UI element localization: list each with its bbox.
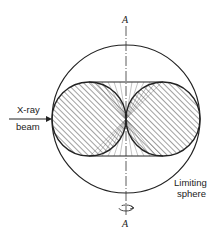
left-hatched-circle bbox=[52, 82, 126, 156]
axis-label-bottom: A bbox=[121, 218, 129, 229]
right-hatched-circle bbox=[126, 82, 200, 156]
limiting-sphere-diagram: A A X-ray beam Limiting sphere bbox=[0, 0, 221, 234]
sphere-label-line1: Limiting bbox=[174, 177, 207, 188]
beam-label-line2: beam bbox=[16, 121, 40, 132]
beam-label-line1: X-ray bbox=[17, 104, 40, 115]
axis-label-top: A bbox=[121, 14, 129, 25]
sphere-label-line2: sphere bbox=[177, 188, 206, 199]
rotation-arrow-icon bbox=[119, 205, 134, 211]
